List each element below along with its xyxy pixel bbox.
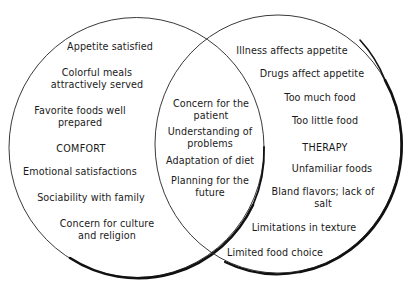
- intersection-item-text: Understanding ofproblems: [168, 126, 253, 149]
- intersection-item-text: Concern for thepatient: [173, 98, 249, 121]
- therapy-item: Too much food: [284, 92, 355, 104]
- therapy-item: Drugs affect appetite: [260, 68, 364, 80]
- comfort-item-text: Concern for cultureand religion: [60, 218, 154, 241]
- comfort-item-text: Colorful mealsattractively served: [51, 67, 143, 90]
- comfort-item: Concern for cultureand religion: [60, 218, 154, 241]
- intersection-item-text: Planning for thefuture: [171, 175, 249, 198]
- therapy-item: Limitations in texture: [252, 222, 357, 234]
- intersection-item: Concern for thepatient: [173, 98, 249, 121]
- intersection-item: Planning for thefuture: [171, 175, 249, 198]
- therapy-item: Too little food: [292, 115, 358, 127]
- comfort-item: Sociability with family: [37, 192, 145, 204]
- comfort-item: Emotional satisfactions: [23, 166, 137, 178]
- comfort-item-text: Favorite foods wellprepared: [34, 105, 126, 128]
- therapy-item: Bland flavors; lack ofsalt: [272, 186, 375, 209]
- therapy-item-text: Bland flavors; lack ofsalt: [272, 186, 375, 209]
- therapy-item: Limited food choice: [227, 247, 323, 259]
- intersection-item: Adaptation of diet: [166, 155, 254, 167]
- comfort-heading: COMFORT: [56, 143, 106, 155]
- therapy-item: Unfamiliar foods: [292, 163, 372, 175]
- therapy-item: Illness affects appetite: [236, 45, 347, 57]
- comfort-item: Colorful mealsattractively served: [51, 67, 143, 90]
- intersection-item: Understanding ofproblems: [168, 126, 253, 149]
- therapy-heading: THERAPY: [302, 142, 348, 154]
- comfort-item: Appetite satisfied: [67, 41, 153, 53]
- comfort-item: Favorite foods wellprepared: [34, 105, 126, 128]
